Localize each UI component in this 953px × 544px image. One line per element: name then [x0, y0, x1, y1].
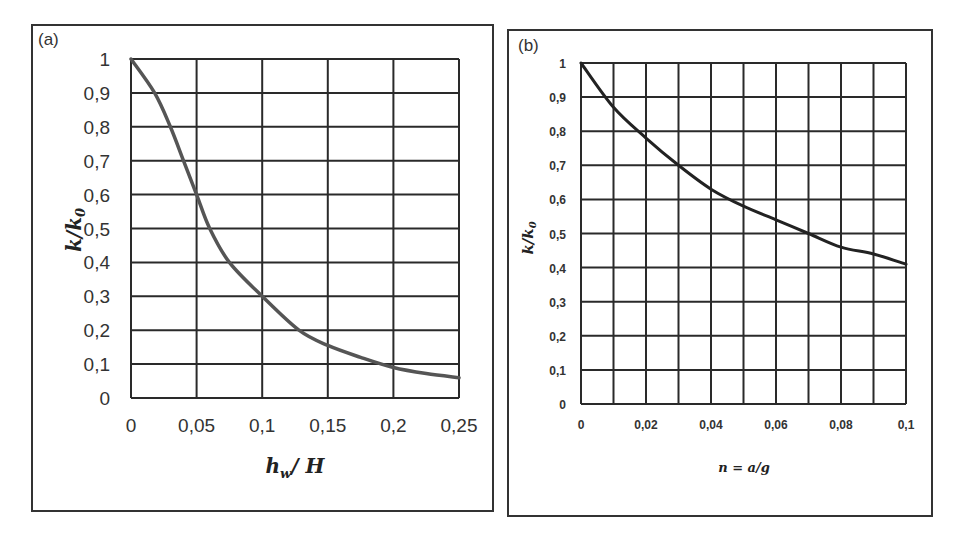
chart-b-x-ticks: 00,020,040,060,080,1: [578, 418, 915, 432]
x-tick-label: 0,02: [634, 418, 658, 432]
x-tick-label: 0,08: [829, 418, 853, 432]
chart-b-x-axis-label: n = a/g: [718, 460, 770, 475]
y-tick-label: 0,3: [549, 296, 566, 310]
x-tick-label: 0,04: [699, 418, 723, 432]
y-tick-label: 0,9: [549, 91, 566, 105]
chart-b-y-axis-label: k/k0: [519, 221, 538, 254]
x-tick-label: 0,1: [898, 418, 915, 432]
y-tick-label: 0,8: [549, 125, 566, 139]
y-tick-label: 0,2: [549, 330, 566, 344]
chart-b-grid: [581, 63, 906, 404]
y-tick-label: 0,5: [549, 228, 566, 242]
x-tick-label: 0,06: [764, 418, 788, 432]
chart-b-plot: 00,10,20,30,40,50,60,70,80,91 00,020,040…: [0, 0, 953, 544]
y-tick-label: 0,6: [549, 193, 566, 207]
chart-b-y-ticks: 00,10,20,30,40,50,60,70,80,91: [549, 57, 566, 412]
y-tick-label: 0,7: [549, 159, 566, 173]
y-tick-label: 0,1: [549, 364, 566, 378]
x-tick-label: 0: [578, 418, 585, 432]
y-tick-label: 0,4: [549, 262, 566, 276]
y-tick-label: 0: [559, 398, 566, 412]
y-tick-label: 1: [559, 57, 566, 71]
